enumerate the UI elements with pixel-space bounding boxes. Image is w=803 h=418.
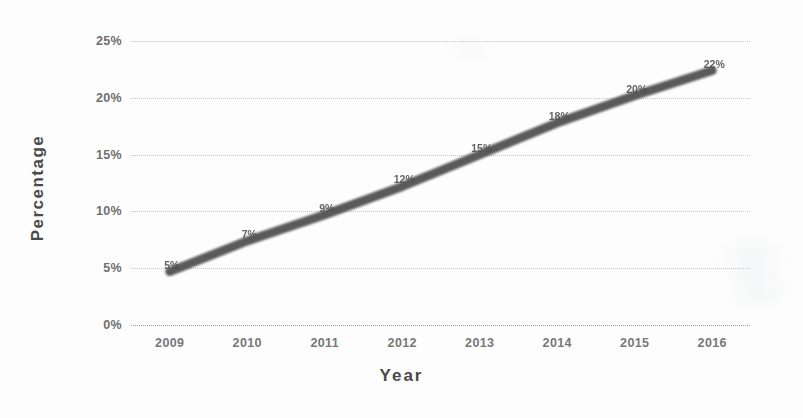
y-tick-label: 15% bbox=[66, 148, 122, 162]
plot-area: 5%7%9%12%15%18%20%22% bbox=[131, 41, 751, 325]
y-tick-label: 10% bbox=[66, 204, 122, 218]
y-tick-label: 20% bbox=[66, 91, 122, 105]
data-point-label: 5% bbox=[164, 259, 179, 271]
y-tick-label: 5% bbox=[66, 261, 122, 275]
y-axis-tick-labels: 0%5%10%15%20%25% bbox=[62, 41, 122, 325]
x-tick-label: 2011 bbox=[285, 336, 365, 350]
data-point-label: 12% bbox=[394, 173, 415, 185]
x-tick-label: 2013 bbox=[440, 336, 520, 350]
x-tick-label: 2015 bbox=[595, 336, 675, 350]
x-tick-label: 2010 bbox=[207, 336, 287, 350]
x-tick-label: 2016 bbox=[672, 336, 752, 350]
data-point-label: 15% bbox=[471, 142, 492, 154]
line-chart: Percentage 0%5%10%15%20%25% 5%7%9%12%15%… bbox=[0, 0, 803, 418]
data-point-label: 7% bbox=[242, 228, 257, 240]
x-axis-tick-labels: 20092010201120122013201420152016 bbox=[131, 336, 751, 358]
y-axis-title: Percentage bbox=[28, 78, 48, 298]
y-tick-label: 25% bbox=[66, 34, 122, 48]
data-point-label: 9% bbox=[319, 202, 334, 214]
series-line-percentage bbox=[131, 41, 751, 325]
data-point-label: 22% bbox=[704, 58, 725, 70]
x-tick-label: 2009 bbox=[130, 336, 210, 350]
x-tick-label: 2014 bbox=[517, 336, 597, 350]
y-tick-label: 0% bbox=[66, 318, 122, 332]
data-point-label: 18% bbox=[549, 110, 570, 122]
x-tick-label: 2012 bbox=[362, 336, 442, 350]
x-axis-title: Year bbox=[0, 366, 803, 386]
x-axis-line bbox=[131, 325, 751, 326]
data-point-label: 20% bbox=[626, 83, 647, 95]
